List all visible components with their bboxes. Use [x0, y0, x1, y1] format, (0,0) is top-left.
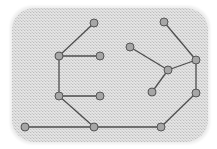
- node-N: [148, 88, 156, 96]
- node-G: [21, 123, 29, 131]
- background-panel: [12, 8, 208, 142]
- node-K: [164, 66, 172, 74]
- node-C: [96, 52, 104, 60]
- node-H: [157, 123, 165, 131]
- node-D: [55, 92, 63, 100]
- node-E: [96, 92, 104, 100]
- node-L: [126, 43, 134, 51]
- graph-diagram: [0, 0, 217, 149]
- node-I: [192, 89, 200, 97]
- node-M: [160, 18, 168, 26]
- node-A: [90, 19, 98, 27]
- node-B: [55, 52, 63, 60]
- node-J: [192, 56, 200, 64]
- node-F: [90, 123, 98, 131]
